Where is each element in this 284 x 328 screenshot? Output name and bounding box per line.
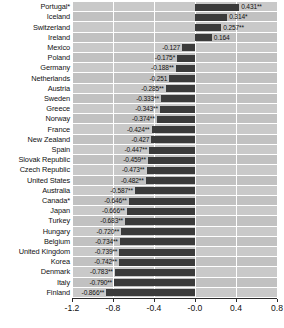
bar-value-label: -0.427 [131, 136, 149, 144]
category-label: Korea [0, 258, 70, 266]
bar [121, 228, 195, 235]
bar [106, 289, 195, 296]
bar-value-label: -0.683** [100, 217, 123, 225]
bar-value-label: -0.666** [102, 207, 125, 215]
x-axis-tick-label: -0.0 [175, 303, 215, 313]
bar-value-label: 0.314* [229, 13, 247, 21]
bar [195, 34, 212, 41]
category-label: Norway [0, 115, 70, 123]
bar [147, 167, 195, 174]
category-label: Italy [0, 279, 70, 287]
gridline [72, 2, 73, 298]
bar [166, 85, 195, 92]
category-label: Hungary [0, 228, 70, 236]
bar [195, 4, 239, 11]
bar-value-label: -0.646** [104, 197, 127, 205]
bar [169, 75, 195, 82]
zero-line [195, 2, 196, 298]
bar-value-label: -0.587** [110, 187, 133, 195]
category-label: Germany [0, 64, 70, 72]
bar [148, 157, 195, 164]
category-label: Slovak Republic [0, 156, 70, 164]
bar-value-label: -0.343** [135, 105, 158, 113]
bar [114, 279, 195, 286]
bar-value-label: -0.783** [90, 268, 113, 276]
category-label: Japan [0, 207, 70, 215]
category-label: Denmark [0, 268, 70, 276]
bar-value-label: -0.374** [132, 115, 155, 123]
bar-value-label: 0.164 [214, 34, 230, 42]
bar [125, 218, 195, 225]
x-axis-tick-label: -0.8 [93, 303, 133, 313]
x-axis-tick-label: 0.4 [216, 303, 256, 313]
category-label: Spain [0, 146, 70, 154]
category-label: Mexico [0, 44, 70, 52]
bar-value-label: -0.285** [141, 85, 164, 93]
bar [119, 259, 195, 266]
bar-value-label: -0.188** [151, 64, 174, 72]
category-label: Turkey [0, 217, 70, 225]
bar [182, 44, 195, 51]
bar [161, 95, 195, 102]
category-label: Ireland [0, 34, 70, 42]
x-axis-tick [195, 299, 196, 302]
category-label: Poland [0, 54, 70, 62]
bar [176, 65, 195, 72]
bar [152, 126, 195, 133]
bar [160, 106, 195, 113]
category-label: Australia [0, 187, 70, 195]
bar [195, 14, 227, 21]
bar-value-label: -0.175* [155, 54, 175, 62]
category-label: Switzerland [0, 24, 70, 32]
x-axis-tick [236, 299, 237, 302]
category-axis-labels: Portugal*IcelandSwitzerlandIrelandMexico… [0, 2, 70, 298]
bar-value-label: -0.473** [122, 166, 145, 174]
category-label: France [0, 126, 70, 134]
bar-value-label: -0.720** [97, 228, 120, 236]
bar-value-label: -0.447** [125, 146, 148, 154]
category-label: Portugal* [0, 3, 70, 11]
gridline [277, 2, 278, 298]
bar-value-label: -0.866** [82, 289, 105, 297]
x-axis-tick-label: -1.2 [52, 303, 92, 313]
category-label: Greece [0, 105, 70, 113]
category-label: Czech Republic [0, 166, 70, 174]
chart-row-band [72, 33, 277, 43]
category-label: Belgium [0, 238, 70, 246]
bar-value-label: -0.739** [95, 248, 118, 256]
bar [149, 147, 195, 154]
bar-value-label: -0.333** [136, 95, 159, 103]
bar-value-label: -0.424** [127, 126, 150, 134]
bar-value-label: -0.790** [89, 279, 112, 287]
bar-value-label: -0.742** [94, 258, 117, 266]
category-label: Sweden [0, 95, 70, 103]
x-axis-tick [154, 299, 155, 302]
bar [127, 208, 195, 215]
x-axis-tick-label: -0.4 [134, 303, 174, 313]
category-label: Finland [0, 289, 70, 297]
category-label: Canada* [0, 197, 70, 205]
bar-value-label: 0.431** [241, 3, 262, 11]
category-label: United Kingdom [0, 248, 70, 256]
x-axis-tick [72, 299, 73, 302]
category-label: Iceland [0, 13, 70, 21]
x-axis-tick-label: 0.8 [257, 303, 284, 313]
bar-value-label: -0.251 [149, 75, 167, 83]
bar [120, 238, 195, 245]
bar-value-label: -0.734** [95, 238, 118, 246]
bar [115, 269, 195, 276]
bar [146, 177, 195, 184]
bar [177, 55, 195, 62]
bar-value-label: -0.482** [121, 177, 144, 185]
category-label: New Zealand [0, 136, 70, 144]
bar [151, 136, 195, 143]
bar [129, 198, 195, 205]
bar [119, 249, 195, 256]
bar [157, 116, 195, 123]
chart-row-band [72, 22, 277, 32]
x-axis-tick [113, 299, 114, 302]
x-axis-tick [277, 299, 278, 302]
category-label: Netherlands [0, 75, 70, 83]
bar [135, 187, 195, 194]
chart-row-band [72, 63, 277, 73]
